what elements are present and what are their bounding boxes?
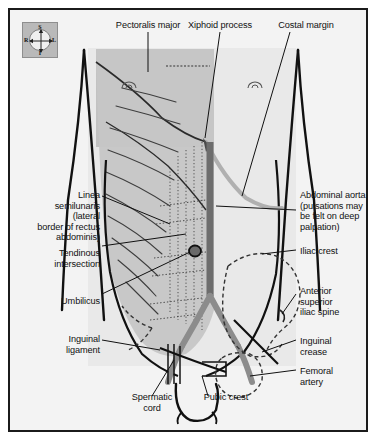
scrotum-left-fold (178, 412, 183, 424)
compass-label-right: R (24, 37, 28, 43)
compass-label-inferior: I (39, 50, 41, 56)
figure-plate: S I R L Pectoralis major Xiphoid process… (8, 8, 368, 432)
orientation-compass: S I R L (22, 22, 58, 58)
label-linea-semilunaris: Linea semilunaris (lateral border of rec… (12, 190, 100, 243)
label-abdominal-aorta: Abdominal aorta (pulsations may be felt … (300, 190, 368, 232)
leader-femoral-artery (250, 370, 296, 376)
label-anterior-superior-iliac-spine: Anterior superior iliac spine (300, 286, 368, 318)
label-iliac-crest: Iliac crest (300, 246, 368, 257)
umbilicus-mark (189, 246, 201, 257)
label-costal-margin: Costal margin (258, 20, 354, 31)
left-arm-outline (62, 50, 84, 310)
compass-label-left: L (52, 37, 56, 43)
label-femoral-artery: Femoral artery (300, 366, 368, 387)
scrotum-right-fold (212, 412, 217, 424)
label-pubic-crest: Pubic crest (186, 392, 266, 403)
label-inguinal-crease: Inguinal crease (300, 336, 368, 357)
label-tendinous-intersection: Tendinous intersection (12, 248, 100, 269)
label-spermatic-cord: Spermatic cord (114, 392, 190, 413)
label-xiphoid-process: Xiphoid process (170, 20, 270, 31)
figure-root: S I R L Pectoralis major Xiphoid process… (0, 0, 377, 445)
label-umbilicus: Umbilicus (12, 296, 100, 307)
compass-label-superior: S (38, 24, 41, 30)
right-arm-outline (298, 50, 320, 310)
label-inguinal-ligament: Inguinal ligament (12, 334, 100, 355)
